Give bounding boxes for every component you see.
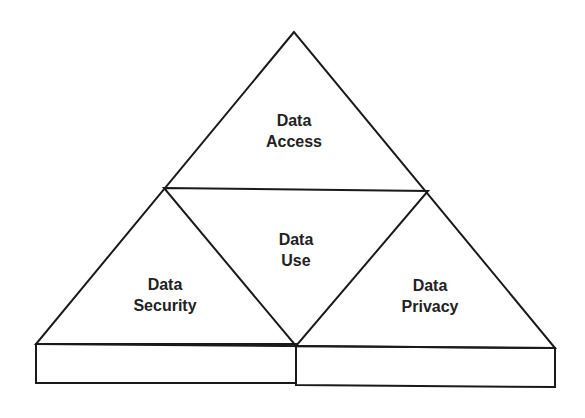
label-line: Data (370, 275, 490, 296)
label-line: Use (236, 250, 356, 271)
section-data-use: Data Use (236, 229, 356, 271)
pyramid-diagram (0, 0, 585, 418)
label-line: Data (236, 229, 356, 250)
label-line: Access (234, 131, 354, 152)
label-line: Security (105, 295, 225, 316)
label-line: Data (105, 274, 225, 295)
label-line: Privacy (370, 296, 490, 317)
section-data-privacy: Data Privacy (370, 275, 490, 317)
section-data-access: Data Access (234, 110, 354, 152)
base-block-left (36, 344, 296, 383)
label-line: Data (234, 110, 354, 131)
section-data-security: Data Security (105, 274, 225, 316)
base-block-right (296, 346, 555, 387)
